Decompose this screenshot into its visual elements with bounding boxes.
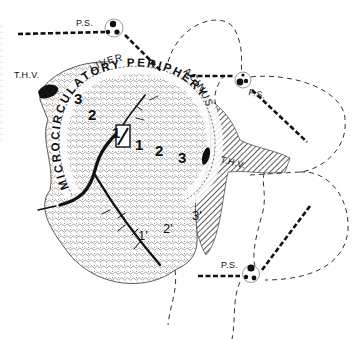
zone-1a: 1 — [112, 124, 120, 141]
thv-left-label: T.H.V. — [14, 70, 39, 80]
ps-bottom-label: P.S. — [221, 260, 238, 270]
ps-right-label: P.S. — [248, 87, 267, 100]
zone-2-prime: 2' — [163, 221, 173, 236]
clipped-edge-text — [0, 22, 3, 142]
zone-3b: 3 — [178, 149, 186, 166]
zone-2b: 2 — [155, 142, 163, 159]
zone-1-prime: 1' — [138, 228, 148, 243]
liver-acinus-diagram: MICROCIRCULATORY PERIPHERY LIVER ACINUS … — [0, 0, 358, 339]
zone-2a: 2 — [88, 106, 96, 123]
zone-1b: 1 — [135, 136, 143, 153]
zone-3-prime: 3' — [192, 208, 202, 223]
zone-3a: 3 — [74, 90, 82, 107]
ps-top-label: P.S. — [76, 18, 93, 28]
